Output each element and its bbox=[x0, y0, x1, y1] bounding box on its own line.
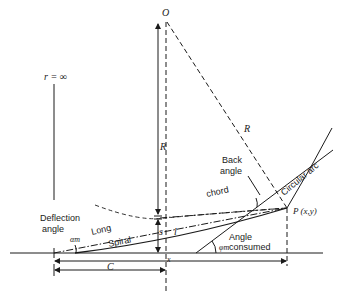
angle-consumed-line2: consumed bbox=[229, 242, 271, 252]
deflection-label-line2: angle bbox=[42, 224, 64, 234]
c-dimension-label: C bbox=[107, 261, 114, 272]
back-angle-leader bbox=[248, 176, 260, 195]
radius-o-to-p bbox=[167, 22, 287, 208]
phi-m-label: φm bbox=[219, 243, 229, 252]
back-angle-label-line2: angle bbox=[220, 166, 242, 176]
alpha-m-label: αm bbox=[70, 235, 80, 244]
chord-label: chord bbox=[205, 184, 229, 198]
phi-m-arc bbox=[212, 241, 216, 253]
angle-consumed-line1: Angle bbox=[229, 232, 252, 242]
back-angle-label-line1: Back bbox=[222, 155, 243, 165]
spiral-curve-diagram: r = ∞ O R s R Circular arc chord Back an… bbox=[0, 0, 340, 293]
circular-arc-label: Circular arc bbox=[279, 160, 321, 198]
slant-radius-label: R bbox=[243, 123, 250, 134]
vertical-radius-label: R bbox=[159, 141, 166, 152]
spiral-label: Spiral bbox=[107, 234, 132, 249]
long-label: Long bbox=[90, 223, 112, 237]
radius-infinite-label: r = ∞ bbox=[44, 71, 67, 82]
point-p-label: P (x,y) bbox=[292, 206, 317, 216]
length-label: l bbox=[174, 226, 177, 237]
shift-label: s bbox=[159, 226, 163, 237]
deflection-label-line1: Deflection bbox=[40, 213, 80, 223]
tangent-at-p bbox=[196, 150, 333, 253]
center-label: O bbox=[162, 7, 169, 18]
x-dimension-label: x bbox=[166, 255, 171, 264]
back-angle-arc bbox=[256, 198, 257, 207]
